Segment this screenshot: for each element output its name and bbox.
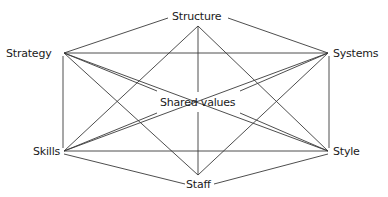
node-systems: Systems bbox=[333, 47, 378, 60]
node-staff: Staff bbox=[186, 178, 211, 191]
node-shared-values: Shared values bbox=[160, 96, 235, 109]
node-style: Style bbox=[333, 145, 360, 158]
node-strategy: Strategy bbox=[6, 47, 52, 60]
node-structure: Structure bbox=[172, 10, 221, 23]
node-skills: Skills bbox=[33, 145, 60, 158]
